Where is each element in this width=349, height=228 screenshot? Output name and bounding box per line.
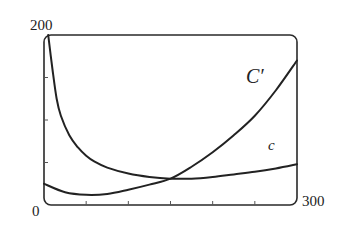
origin-label: 0	[32, 204, 40, 219]
x-axis-max-label: 300	[302, 194, 325, 209]
cost-chart: 200 0 300 C′ c	[0, 0, 349, 228]
c-prime-curve-label: C′	[246, 66, 264, 86]
y-axis-max-label: 200	[30, 18, 53, 33]
axis-ticks	[44, 78, 255, 206]
plot-area	[0, 0, 349, 228]
c-curve-label: c	[268, 138, 275, 153]
curves	[44, 35, 297, 195]
average-cost-curve-c	[48, 35, 297, 179]
